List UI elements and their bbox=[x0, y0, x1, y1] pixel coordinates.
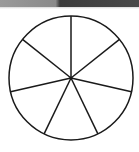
fraction-circle-diagram bbox=[0, 0, 139, 152]
center-point bbox=[69, 76, 72, 79]
